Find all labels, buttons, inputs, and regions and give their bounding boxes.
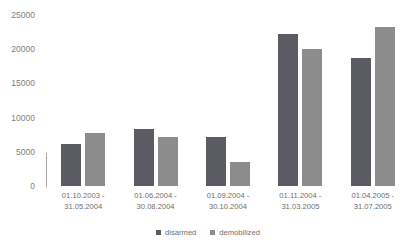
x-axis-label: 01.04.2005 -31.07.2005 (337, 190, 409, 212)
x-axis-label-line: 30.10.2004 (192, 201, 264, 212)
legend-item-disarmed[interactable]: disarmed (156, 229, 196, 237)
x-axis-label-line: 01.09.2004 - (192, 190, 264, 201)
plot-area: 0500010000150002000025000 (47, 15, 409, 186)
y-axis-tick-10000: 10000 (0, 113, 35, 122)
x-axis-label-line: 30.08.2004 (119, 201, 191, 212)
legend-item-demobilized[interactable]: demobilized (210, 229, 260, 237)
chart-legend: disarmeddemobilized (0, 229, 416, 237)
x-axis-label-line: 31.07.2005 (337, 201, 409, 212)
x-axis-label-line: 01.06.2004 - (119, 190, 191, 201)
y-axis-tick-15000: 15000 (0, 79, 35, 88)
legend-label: demobilized (219, 229, 260, 237)
y-axis-tick-20000: 20000 (0, 45, 35, 54)
x-axis-label: 01.06.2004 -30.08.2004 (119, 190, 191, 212)
bar-demobilized (85, 133, 105, 186)
x-axis-label-line: 01.11.2004 - (264, 190, 336, 201)
bar-demobilized (375, 27, 395, 186)
legend-swatch-icon (210, 230, 215, 235)
bar-group (192, 15, 264, 186)
bar-group (337, 15, 409, 186)
bar-chart: 0500010000150002000025000 01.10.2003 -31… (0, 0, 416, 247)
y-axis-tick-5000: 5000 (0, 148, 35, 157)
bar-disarmed (278, 34, 298, 186)
x-axis-label: 01.11.2004 -31.03.2005 (264, 190, 336, 212)
x-axis-label-line: 01.04.2005 - (337, 190, 409, 201)
bar-demobilized (302, 49, 322, 186)
bar-demobilized (230, 162, 250, 186)
y-axis-tick-0: 0 (0, 182, 35, 191)
x-axis-label-line: 31.03.2005 (264, 201, 336, 212)
bar-disarmed (351, 58, 371, 186)
bar-disarmed (61, 144, 81, 186)
bar-disarmed (134, 129, 154, 186)
bar-group (264, 15, 336, 186)
x-axis-label-line: 01.10.2003 - (47, 190, 119, 201)
x-axis-label: 01.10.2003 -31.05.2004 (47, 190, 119, 212)
y-axis-tick-25000: 25000 (0, 11, 35, 20)
legend-swatch-icon (156, 230, 161, 235)
legend-label: disarmed (165, 229, 196, 237)
bar-disarmed (206, 137, 226, 186)
bar-demobilized (158, 137, 178, 186)
bar-group (47, 15, 119, 186)
x-axis-label: 01.09.2004 -30.10.2004 (192, 190, 264, 212)
bar-group (119, 15, 191, 186)
x-axis-label-line: 31.05.2004 (47, 201, 119, 212)
